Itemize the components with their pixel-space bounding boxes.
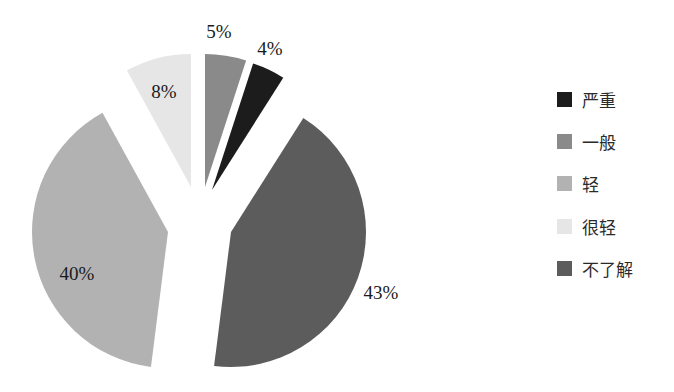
legend: 严重 一般 轻 很轻 不了解 xyxy=(557,78,633,289)
legend-label: 一般 xyxy=(582,129,616,154)
legend-swatch-icon xyxy=(557,219,572,234)
pie-slice xyxy=(214,118,366,367)
slice-percent-label: 5% xyxy=(206,21,232,42)
legend-label: 很轻 xyxy=(582,214,616,239)
legend-swatch-icon xyxy=(557,134,572,149)
legend-label: 轻 xyxy=(582,171,599,196)
legend-swatch-icon xyxy=(557,176,572,191)
slice-percent-label: 40% xyxy=(60,263,95,284)
legend-label: 不了解 xyxy=(582,256,633,281)
legend-item-unknown: 不了解 xyxy=(557,247,633,289)
slice-percent-label: 8% xyxy=(151,81,177,102)
slice-percent-label: 43% xyxy=(364,282,399,303)
pie-slice xyxy=(32,113,168,367)
legend-label: 严重 xyxy=(582,87,616,112)
legend-item-mild: 轻 xyxy=(557,163,633,205)
legend-swatch-icon xyxy=(557,261,572,276)
legend-item-severe: 严重 xyxy=(557,78,633,120)
slice-percent-label: 4% xyxy=(257,38,283,59)
legend-swatch-icon xyxy=(557,92,572,107)
pie-slices xyxy=(32,54,366,367)
legend-item-moderate: 一般 xyxy=(557,120,633,162)
pie-slice xyxy=(127,54,191,187)
legend-item-very-mild: 很轻 xyxy=(557,205,633,247)
